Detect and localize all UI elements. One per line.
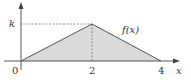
x-axis-arrow-icon xyxy=(173,59,180,64)
shaded-area xyxy=(21,24,161,61)
tick-label-2: 2 xyxy=(89,65,95,76)
triangular-distribution-diagram: k 0 2 4 x f(x) xyxy=(0,0,191,84)
y-axis-arrow-icon xyxy=(19,2,24,9)
x-axis-label: x xyxy=(176,65,182,76)
tick-label-4: 4 xyxy=(158,65,164,76)
tick-label-0: 0 xyxy=(12,65,18,76)
function-label: f(x) xyxy=(121,24,139,35)
k-label: k xyxy=(9,18,15,29)
